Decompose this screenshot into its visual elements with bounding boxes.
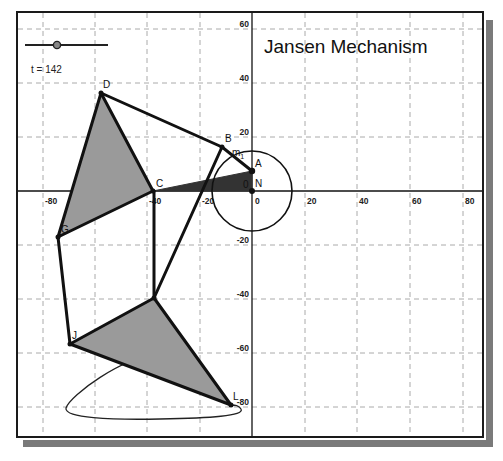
point-B[interactable] [220,145,225,150]
svg-text:D: D [103,79,110,90]
svg-text:20: 20 [307,196,317,206]
svg-text:40: 40 [359,196,369,206]
svg-text:-40: -40 [237,289,250,299]
svg-text:L: L [233,391,239,402]
point-J[interactable] [68,342,73,347]
link-G-J [58,237,70,344]
svg-text:0: 0 [255,196,260,206]
svg-text:B: B [225,133,232,144]
svg-text:A: A [255,158,262,169]
svg-text:60: 60 [240,19,250,29]
point-D[interactable] [99,91,104,96]
svg-text:0: 0 [243,179,249,190]
point-C[interactable] [151,189,156,194]
lower-triangle-JHL [70,298,231,405]
svg-text:20: 20 [240,127,250,137]
link-H-B [154,147,222,298]
svg-text:N: N [255,178,262,189]
y-tick-labels: 60 40 20 -20 -40 -60 -80 [237,19,250,407]
svg-text:40: 40 [240,73,250,83]
svg-text:J: J [72,330,77,341]
point-G[interactable] [56,235,61,240]
diagram-title: Jansen Mechanism [264,36,428,58]
svg-text:G: G [61,224,69,235]
mechanism-drawing: -80 -60 -40 -20 0 20 40 60 80 60 40 20 -… [0,0,503,461]
svg-text:-80: -80 [237,397,250,407]
svg-text:-60: -60 [237,343,250,353]
slider-value-label: t = 142 [31,64,62,75]
svg-text:80: 80 [465,196,475,206]
grid [18,13,482,436]
point-L[interactable] [229,403,234,408]
geogebra-canvas[interactable]: -80 -60 -40 -20 0 20 40 60 80 60 40 20 -… [0,0,503,461]
svg-text:-80: -80 [45,196,58,206]
upper-triangle-DGC [58,93,153,237]
time-slider[interactable] [25,41,108,48]
slider-knob[interactable] [53,41,60,48]
svg-text:-20: -20 [237,235,250,245]
point-H[interactable] [152,296,157,301]
svg-text:C: C [156,178,163,189]
svg-text:60: 60 [412,196,422,206]
